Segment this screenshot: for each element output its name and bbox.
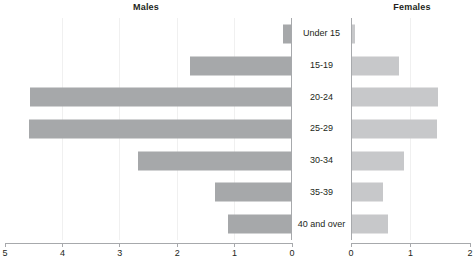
age-label-row: 20-24	[292, 81, 351, 113]
age-label-row: 30-34	[292, 145, 351, 177]
males-axis-tick-5	[5, 243, 6, 247]
females-axis-tick-1	[410, 243, 411, 247]
bar-row	[5, 113, 292, 145]
males-x-axis: 543210	[5, 243, 292, 261]
male-bar-30-34	[138, 151, 292, 170]
females-axis-tick-2	[470, 243, 471, 247]
males-axis-line	[5, 243, 292, 244]
bar-row	[5, 177, 292, 209]
bar-row	[5, 18, 292, 50]
age-label-row: 15-19	[292, 50, 351, 82]
bar-row	[5, 81, 292, 113]
males-axis-tick-label-4: 4	[60, 248, 65, 258]
males-axis-tick-4	[62, 243, 63, 247]
males-axis-tick-1	[234, 243, 235, 247]
females-plot-area	[351, 18, 470, 240]
age-label-row: Under 15	[292, 18, 351, 50]
bar-row	[351, 177, 470, 209]
age-label-row: 25-29	[292, 113, 351, 145]
males-plot-area	[5, 18, 292, 240]
age-group-label-under-15: Under 15	[303, 29, 340, 38]
population-pyramid-chart: Males Females Under 1515-1920-2425-2930-…	[0, 0, 473, 266]
female-bar-15-19	[351, 56, 399, 75]
bar-row	[351, 81, 470, 113]
male-bar-35-39	[215, 183, 292, 202]
females-axis-tick-label-0: 0	[348, 248, 353, 258]
males-axis-tick-label-2: 2	[175, 248, 180, 258]
male-bar-20-24	[30, 88, 292, 107]
age-label-row: 40 and over	[292, 208, 351, 240]
males-panel-title: Males	[0, 2, 292, 12]
females-zero-axis-line	[351, 18, 352, 240]
males-axis-tick-label-1: 1	[232, 248, 237, 258]
females-x-axis: 012	[351, 243, 470, 261]
bar-row	[351, 50, 470, 82]
age-label-row: 35-39	[292, 177, 351, 209]
bar-row	[351, 18, 470, 50]
age-group-label-column: Under 1515-1920-2425-2930-3435-3940 and …	[292, 18, 351, 240]
age-group-label-40-and-over: 40 and over	[298, 220, 346, 229]
males-axis-tick-label-0: 0	[289, 248, 294, 258]
females-panel-title: Females	[351, 2, 473, 12]
males-axis-tick-label-3: 3	[117, 248, 122, 258]
age-group-label-30-34: 30-34	[310, 156, 333, 165]
males-axis-tick-2	[177, 243, 178, 247]
bar-row	[351, 145, 470, 177]
males-axis-tick-0	[292, 243, 293, 247]
bar-row	[351, 208, 470, 240]
males-bar-rows	[5, 18, 292, 240]
age-group-label-20-24: 20-24	[310, 93, 333, 102]
female-bar-20-24	[351, 88, 438, 107]
male-bar-40-and-over	[228, 215, 292, 234]
age-group-label-35-39: 35-39	[310, 188, 333, 197]
male-bar-15-19	[190, 56, 292, 75]
females-axis-tick-label-2: 2	[467, 248, 472, 258]
bar-row	[351, 113, 470, 145]
males-axis-tick-3	[119, 243, 120, 247]
age-group-label-15-19: 15-19	[310, 61, 333, 70]
females-axis-tick-0	[351, 243, 352, 247]
female-bar-35-39	[351, 183, 383, 202]
age-group-label-25-29: 25-29	[310, 124, 333, 133]
female-bar-30-34	[351, 151, 404, 170]
bar-row	[5, 50, 292, 82]
bar-row	[5, 145, 292, 177]
male-bar-25-29	[29, 119, 292, 138]
bar-row	[5, 208, 292, 240]
females-axis-tick-label-1: 1	[408, 248, 413, 258]
female-bar-40-and-over	[351, 215, 388, 234]
females-bar-rows	[351, 18, 470, 240]
males-axis-tick-label-5: 5	[2, 248, 7, 258]
female-bar-25-29	[351, 119, 437, 138]
